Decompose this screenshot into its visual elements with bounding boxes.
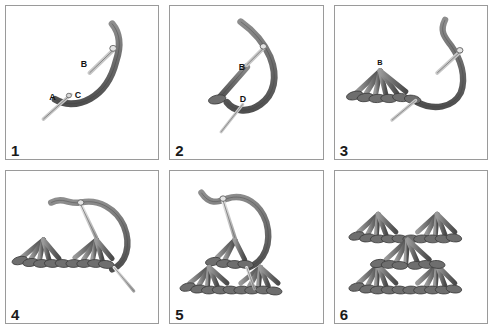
panel-2-illustration: B D: [170, 6, 322, 159]
thread-curve-outline: [55, 24, 119, 104]
needle-tail: [114, 267, 134, 291]
fan-top-right: [417, 214, 454, 236]
needle-working: [78, 199, 97, 237]
panel-4: 4: [5, 170, 159, 325]
panel-5-illustration: [170, 171, 322, 324]
panel-number-3: 3: [340, 143, 348, 158]
panel-number-6: 6: [340, 307, 348, 322]
needle-eye-lower: [66, 93, 71, 98]
needle-eye-upper: [456, 48, 462, 54]
needle-working: [392, 100, 416, 120]
needle-eye: [220, 195, 226, 201]
panel-1: A C B 1: [5, 5, 159, 160]
fan-1-spokes: [22, 239, 59, 260]
panel-3: B 3: [334, 5, 488, 160]
fan-spokes: [356, 71, 405, 96]
needle-through-loop: [247, 44, 267, 65]
panel-6: 6: [334, 170, 488, 325]
fan-bottom-left: [358, 265, 395, 287]
label-a: A: [49, 92, 56, 102]
panel-number-5: 5: [175, 307, 183, 322]
fan-middle-center: [386, 239, 429, 263]
panel-grid: A C B 1: [0, 0, 493, 329]
fan-2-spokes: [75, 239, 112, 260]
thread-curve: [55, 24, 119, 104]
panel-3-illustration: B: [335, 6, 487, 159]
label-d: D: [240, 94, 246, 104]
panel-4-illustration: [6, 171, 158, 324]
panel-1-illustration: A C B: [6, 6, 158, 159]
thread-loop: [227, 22, 274, 110]
panel-2: B D 2: [169, 5, 323, 160]
thread-curve: [417, 20, 463, 107]
label-b: B: [377, 58, 382, 67]
fan-top-left: [358, 214, 395, 236]
thread-curve: [51, 200, 127, 269]
needle-eye: [261, 44, 267, 50]
panel-5: 5: [169, 170, 323, 325]
label-b: B: [81, 59, 87, 69]
label-c: C: [75, 90, 82, 100]
figure-sheet: A C B 1: [0, 0, 493, 329]
panel-number-2: 2: [175, 143, 183, 158]
panel-number-1: 1: [11, 143, 19, 158]
panel-6-illustration: [335, 171, 487, 324]
needle-eye-upper: [110, 45, 117, 51]
fan-upper-spokes: [218, 239, 246, 260]
fan-bottom-left-spokes: [190, 267, 227, 287]
panel-number-4: 4: [11, 307, 19, 322]
needle-eye: [78, 199, 84, 205]
label-b: B: [239, 62, 245, 72]
needle-working: [220, 195, 235, 237]
